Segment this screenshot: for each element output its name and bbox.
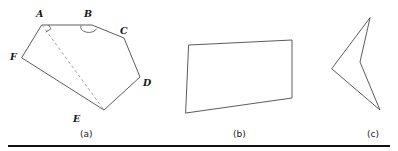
vertex-label-C: C xyxy=(120,25,128,36)
figures-canvas: A B C D E F (a) (b) (c) xyxy=(0,0,398,151)
vertex-label-A: A xyxy=(35,8,43,19)
figure-a: A B C D E F (a) xyxy=(9,8,152,139)
figure-a-outline xyxy=(22,25,140,110)
angle-mark-B-icon xyxy=(81,26,97,33)
figure-a-caption: (a) xyxy=(80,129,93,139)
vertex-label-F: F xyxy=(9,51,18,62)
figure-a-diagonal-A-E xyxy=(42,25,104,110)
figure-b: (b) xyxy=(186,40,292,139)
figure-sheet: A B C D E F (a) (b) (c) xyxy=(0,0,398,151)
figure-b-caption: (b) xyxy=(233,129,246,139)
figure-b-outline xyxy=(186,40,292,113)
vertex-label-B: B xyxy=(83,8,92,19)
vertex-label-E: E xyxy=(72,113,81,124)
figure-c-outline xyxy=(332,18,380,110)
figure-c-caption: (c) xyxy=(367,129,379,139)
vertex-label-D: D xyxy=(142,77,152,88)
figure-c: (c) xyxy=(332,18,380,139)
